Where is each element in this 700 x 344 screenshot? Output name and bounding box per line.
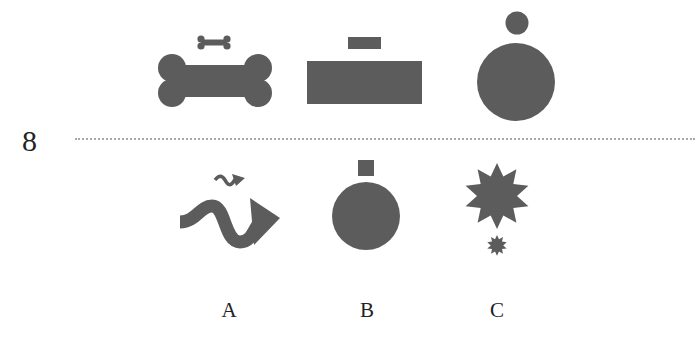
large-circle-icon bbox=[332, 182, 400, 250]
large-circle-icon bbox=[477, 43, 555, 121]
example-rectangle-pair bbox=[307, 37, 422, 104]
option-a-shapes bbox=[180, 174, 280, 245]
large-star-icon bbox=[466, 163, 529, 229]
option-b-shapes bbox=[332, 160, 400, 250]
large-rectangle-icon bbox=[307, 61, 422, 104]
small-wavy-arrow-icon bbox=[215, 174, 245, 186]
small-circle-icon bbox=[506, 12, 529, 35]
option-c-shapes bbox=[466, 163, 529, 256]
option-a-label[interactable]: A bbox=[221, 300, 236, 321]
puzzle-page: 8 bbox=[0, 0, 700, 344]
option-c-label[interactable]: C bbox=[490, 300, 504, 321]
small-square-icon bbox=[358, 160, 374, 176]
small-star-icon bbox=[487, 235, 506, 256]
large-wavy-arrow-icon bbox=[180, 198, 280, 245]
large-bone-icon bbox=[158, 54, 272, 107]
small-bone-icon bbox=[197, 35, 230, 49]
option-b-label[interactable]: B bbox=[360, 300, 374, 321]
example-circle-pair bbox=[477, 12, 555, 122]
shapes-canvas bbox=[0, 0, 700, 344]
example-bone-pair bbox=[158, 35, 272, 107]
small-rectangle-icon bbox=[348, 37, 381, 49]
